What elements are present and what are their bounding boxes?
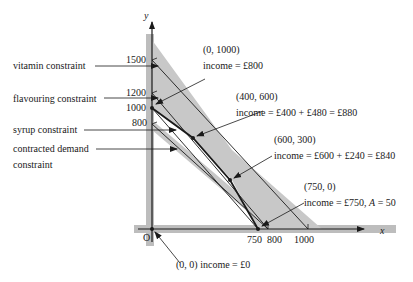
contracted-demand-label-line1: contracted demand — [13, 143, 89, 155]
origin-label: O — [143, 232, 150, 244]
p4-income: income = £750, A = 50 — [304, 197, 396, 209]
vertex-0-1000 — [150, 106, 154, 110]
contracted-demand-label-line2: constraint — [13, 159, 52, 171]
p3-coord: (600, 300) — [274, 134, 316, 146]
p4-coord: (750, 0) — [304, 181, 336, 193]
y-tick-800: 800 — [132, 117, 147, 129]
vertex-750-0 — [256, 227, 260, 231]
vertex-400-600 — [191, 136, 195, 140]
p1-income: income = £800 — [203, 60, 263, 72]
x-tick-800: 800 — [267, 234, 282, 246]
p4-income-suffix: = 50 — [375, 197, 396, 208]
x-tick-750: 750 — [247, 234, 262, 246]
vertex-600-300 — [228, 178, 232, 182]
vertex-origin — [150, 227, 154, 231]
vitamin-constraint-label: vitamin constraint — [13, 60, 86, 72]
x-tick-1000: 1000 — [294, 234, 314, 246]
y-tick-1500: 1500 — [126, 54, 146, 66]
flavouring-constraint-label: flavouring constraint — [13, 93, 97, 105]
y-axis-label: y — [144, 10, 148, 22]
origin-income-label: (0, 0) income = £0 — [176, 259, 250, 271]
y-tick-1000: 1000 — [126, 102, 146, 114]
p4-income-prefix: income = £750, — [304, 197, 369, 208]
p2-coord: (400, 600) — [236, 91, 278, 103]
y-tick-1200: 1200 — [126, 87, 146, 99]
syrup-constraint-label: syrup constraint — [13, 124, 77, 136]
x-axis-label: x — [380, 225, 384, 237]
p3-income: income = £600 + £240 = £840 — [274, 150, 395, 162]
diagram-canvas — [0, 0, 413, 282]
p1-coord: (0, 1000) — [203, 44, 240, 56]
p2-income: income = £400 + £480 = £880 — [236, 107, 357, 119]
shaded-constraint-bands — [134, 34, 396, 246]
